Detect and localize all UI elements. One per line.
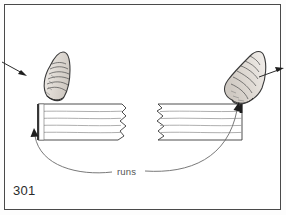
runs-label: runs [117, 166, 136, 177]
left-direction-arrow [2, 62, 27, 76]
left-thumb [44, 52, 70, 101]
page-number: 301 [13, 183, 36, 198]
left-siding-board [37, 104, 126, 140]
figure-illustration [0, 0, 286, 215]
right-siding-board [157, 101, 242, 140]
right-thumb [225, 52, 266, 105]
figure-page: runs 301 [0, 0, 286, 215]
